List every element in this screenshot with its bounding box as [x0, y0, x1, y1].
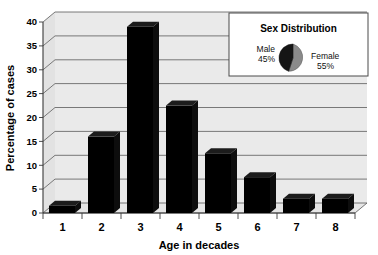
legend-title: Sex Distribution: [260, 23, 337, 34]
x-tick-label: 2: [98, 221, 104, 233]
bar-chart-figure: 0 5 10 15 20 25 30 35 40 Percentage of c…: [0, 0, 378, 255]
y-tick-label: 35: [26, 40, 37, 51]
y-tick-label: 15: [26, 136, 37, 147]
x-tick-label: 7: [293, 221, 299, 233]
y-tick-label: 5: [32, 183, 38, 194]
y-tick-label: 0: [32, 207, 37, 218]
y-axis-title: Percentage of cases: [4, 65, 16, 171]
y-tick-label: 30: [26, 64, 37, 75]
x-tick-label: 4: [176, 221, 183, 233]
sex-distribution-legend-box: Sex Distribution Male 45% Female 55%: [229, 13, 368, 76]
bar-6: [244, 172, 276, 213]
y-tick-label: 40: [26, 16, 37, 27]
legend-label-female: Female: [311, 51, 340, 61]
y-tick-label: 25: [26, 88, 37, 99]
bar-8: [322, 194, 354, 213]
legend-label-male: Male: [257, 44, 276, 54]
y-tick-label: 10: [26, 160, 37, 171]
bar-3: [127, 22, 159, 213]
x-tick-label: 5: [215, 221, 221, 233]
bar-7: [283, 194, 315, 213]
bar-2: [88, 132, 120, 213]
y-tick-label: 20: [26, 112, 37, 123]
bar-5: [205, 148, 237, 213]
x-tick-label: 8: [332, 221, 338, 233]
x-axis-title: Age in decades: [159, 239, 240, 251]
chart-svg: 0 5 10 15 20 25 30 35 40 Percentage of c…: [0, 0, 378, 255]
legend-value-male: 45%: [258, 54, 275, 64]
bar-1: [49, 201, 81, 213]
x-tick-label: 6: [254, 221, 260, 233]
x-tick-label: 1: [59, 221, 65, 233]
x-tick-label: 3: [137, 221, 143, 233]
bar-4: [166, 101, 198, 213]
legend-value-female: 55%: [317, 61, 334, 71]
